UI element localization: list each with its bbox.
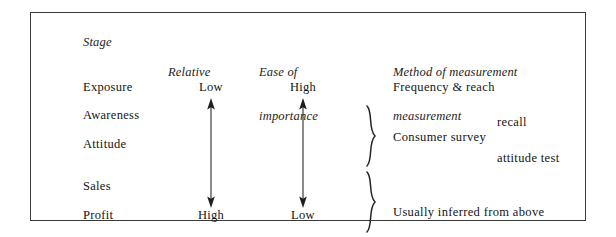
ease-of-measurement-arrow-icon	[293, 97, 313, 209]
method-usually-inferred-from-above: Usually inferred from above	[393, 205, 544, 220]
ease-of-measurement-bottom-label: Low	[273, 208, 333, 223]
ease-of-measurement-top-label: High	[273, 80, 333, 95]
relative-importance-arrow-icon	[201, 97, 221, 209]
method-recall: recall	[497, 115, 527, 130]
method-frequency-and-reach: Frequency & reach	[393, 80, 495, 95]
brace-consumer-survey-group-icon	[362, 105, 384, 167]
figure-frame: Stage Relative Ease of importance Method…	[30, 12, 586, 221]
stage-row-profit: Profit	[83, 208, 113, 223]
stage-row-sales: Sales	[83, 179, 111, 194]
column-header-relative-line1: Relative	[168, 65, 211, 80]
method-consumer-survey: Consumer survey	[393, 130, 486, 145]
relative-importance-top-label: Low	[181, 80, 241, 95]
measurement-stage-figure: Stage Relative Ease of importance Method…	[0, 0, 616, 237]
column-header-ease-line1: Ease of	[259, 65, 318, 80]
column-header-stage: Stage	[83, 35, 112, 50]
stage-row-exposure: Exposure	[83, 80, 133, 95]
brace-inferred-group-icon	[362, 171, 384, 233]
relative-importance-bottom-label: High	[181, 208, 241, 223]
stage-row-awareness: Awareness	[83, 108, 139, 123]
method-attitude-test: attitude test	[497, 151, 560, 166]
column-header-method-line1: Method of measurement	[393, 65, 518, 80]
stage-row-attitude: Attitude	[83, 137, 126, 152]
